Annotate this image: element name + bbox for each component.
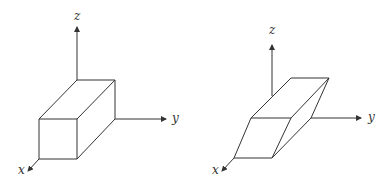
left-figure: z y x [18, 9, 179, 177]
diagram-canvas: z y x z y x [0, 0, 390, 181]
box [39, 80, 115, 159]
x-axis [28, 159, 39, 171]
x-axis-label: x [18, 163, 25, 177]
x-axis [222, 158, 234, 171]
x-axis-label: x [212, 163, 219, 177]
y-axis-label: y [367, 110, 375, 124]
right-figure: z y x [212, 23, 375, 177]
z-axis-label: z [268, 23, 276, 37]
z-axis-label: z [73, 9, 81, 23]
y-axis-label: y [171, 111, 179, 125]
